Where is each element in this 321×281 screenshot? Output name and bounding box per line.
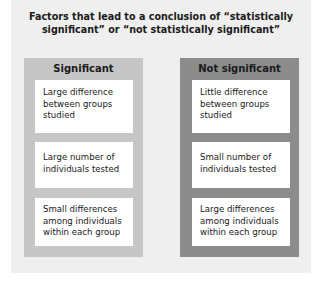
factor-box: Small number of individuals tested [192,142,290,188]
factor-box: Large number of individuals tested [35,142,133,188]
panel-heading-significant: Significant [24,63,143,74]
diagram-title: Factors that lead to a conclusion of “st… [11,10,311,36]
factor-box: Large difference between groups studied [35,80,133,133]
panel-significant: Significant Large difference between gro… [24,58,143,257]
factor-box: Small differences among individuals with… [35,198,133,246]
factor-box: Little difference between groups studied [192,80,290,133]
factor-box: Large differences among individuals with… [192,198,290,246]
panel-not-significant: Not significant Little difference betwee… [180,58,299,257]
panel-heading-not-significant: Not significant [180,63,299,74]
